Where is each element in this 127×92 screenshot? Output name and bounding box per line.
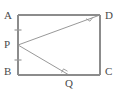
point-label-p: P	[4, 39, 10, 50]
vertex-label-d: D	[105, 10, 113, 21]
point-label-q: Q	[65, 78, 73, 89]
vertex-label-b: B	[4, 66, 11, 77]
geometry-figure: A D B C P Q	[0, 0, 127, 92]
vertex-label-a: A	[4, 10, 12, 21]
segment-pq	[18, 45, 69, 75]
rectangle-abcd	[18, 15, 100, 75]
vertex-label-c: C	[105, 66, 112, 77]
